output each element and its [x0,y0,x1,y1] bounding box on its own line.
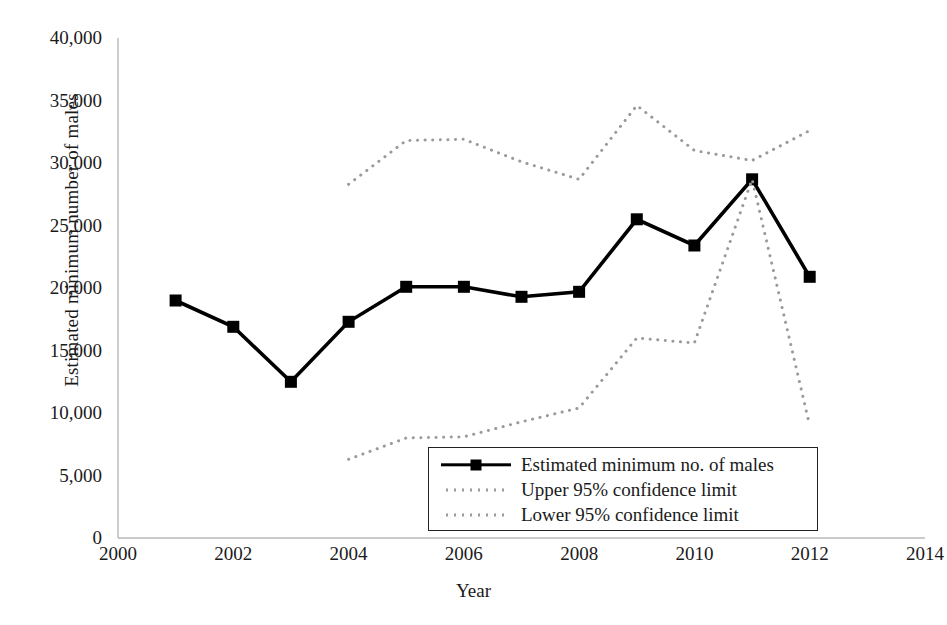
data-point-marker [227,321,239,333]
x-axis-tick-label: 2006 [445,543,483,565]
x-axis-tick-label: 2002 [214,543,252,565]
y-axis-title: Estimated minimum number of males [52,0,92,520]
data-point-marker [573,286,585,298]
data-point-marker [458,281,470,293]
chart-container: 05,00010,00015,00020,00025,00030,00035,0… [0,0,947,625]
data-point-marker [631,213,643,225]
data-point-marker [804,271,816,283]
dotted-line-key-icon [437,505,515,525]
series-line-1 [349,106,810,185]
legend-label: Upper 95% confidence limit [515,479,737,501]
solid-square-line-key-icon [437,455,515,475]
x-axis-tick-label: 2008 [560,543,598,565]
legend: Estimated minimum no. of males Upper 95%… [428,447,818,531]
data-point-marker [343,316,355,328]
legend-item-estimated-minimum: Estimated minimum no. of males [437,452,811,477]
legend-label: Lower 95% confidence limit [515,504,739,526]
legend-label: Estimated minimum no. of males [515,454,774,476]
data-point-marker [746,173,758,185]
plot-area [0,0,947,625]
data-point-marker [516,291,528,303]
legend-item-lower-ci: Lower 95% confidence limit [437,502,811,527]
data-point-marker [688,240,700,252]
x-axis-tick-label: 2010 [675,543,713,565]
data-point-marker [170,295,182,307]
series-line-2 [349,179,810,459]
data-point-marker [285,376,297,388]
x-axis-tick-label: 2014 [906,543,944,565]
x-axis-title: Year [0,580,947,602]
dotted-line-key-icon [437,480,515,500]
series-line-0 [176,179,810,381]
x-axis-tick-label: 2004 [330,543,368,565]
data-series-group [170,106,816,460]
data-point-marker [400,281,412,293]
legend-item-upper-ci: Upper 95% confidence limit [437,477,811,502]
x-axis-tick-label: 2000 [99,543,137,565]
x-axis-tick-label: 2012 [791,543,829,565]
